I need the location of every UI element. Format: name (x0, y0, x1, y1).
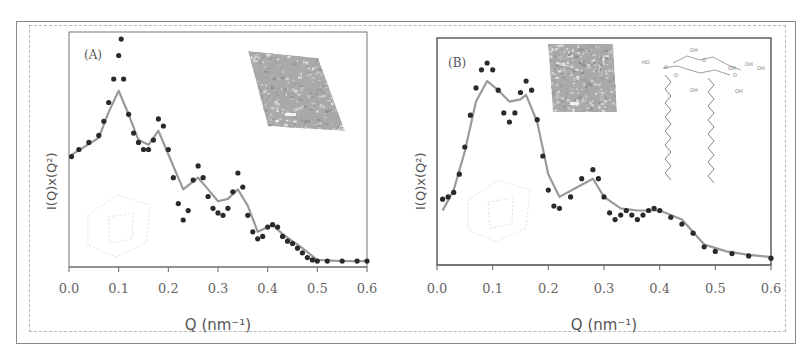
data-point (191, 178, 196, 183)
data-point (300, 250, 305, 255)
data-point (310, 257, 315, 262)
data-point (201, 175, 206, 180)
data-point (451, 190, 456, 195)
data-point (285, 239, 290, 244)
data-point (490, 67, 495, 72)
data-point (230, 189, 235, 194)
data-point (557, 206, 562, 211)
data-point (240, 185, 245, 190)
data-point (131, 131, 136, 136)
chem-atom-label: OH (690, 47, 698, 53)
data-point (315, 259, 320, 264)
chem-atom-label: HO (642, 59, 650, 65)
panel-a-chart: 0.00.10.20.30.40.50.6 (A) I(Q)x(Q²) Q (n… (44, 32, 377, 334)
data-point (691, 231, 696, 236)
chem-atom-label: O (664, 64, 668, 70)
panel-a-plot-frame (69, 32, 367, 267)
panel-b-label: (B) (448, 56, 466, 70)
data-point (176, 201, 181, 206)
data-point (86, 140, 91, 145)
data-point (126, 112, 131, 117)
panel-b-y-axis-title: I(Q)x(Q²) (413, 153, 428, 211)
data-point (220, 213, 225, 218)
panel-a-y-axis-title: I(Q)x(Q²) (44, 153, 59, 211)
data-point (275, 225, 280, 230)
data-point (196, 163, 201, 168)
x-tick-label: 0.4 (257, 281, 278, 296)
data-point (551, 203, 556, 208)
data-point (646, 208, 651, 213)
data-point (668, 215, 673, 220)
data-point (280, 234, 285, 239)
data-point (119, 37, 124, 42)
data-point (540, 153, 545, 158)
data-point (457, 172, 462, 177)
data-point (618, 213, 623, 218)
data-point (501, 110, 506, 115)
panel-a-x-axis-title: Q (nm⁻¹) (185, 316, 251, 334)
data-point (225, 206, 230, 211)
data-point (156, 116, 161, 121)
chem-atom-label: OH (745, 61, 753, 67)
x-tick-label: 0.3 (594, 281, 615, 296)
x-tick-label: 0.5 (705, 281, 726, 296)
data-point (613, 217, 618, 222)
figure-canvas: 0.00.10.20.30.40.50.6 (A) I(Q)x(Q²) Q (n… (0, 0, 805, 357)
chem-atom-label: OH (690, 87, 698, 93)
data-point (106, 100, 111, 105)
data-point (512, 110, 517, 115)
data-point (166, 147, 171, 152)
chem-atom-label: OH (728, 65, 736, 71)
panel-b-x-axis: 0.00.10.20.30.40.50.6 (427, 265, 782, 296)
data-point (579, 176, 584, 181)
data-point (161, 123, 166, 128)
data-point (255, 236, 260, 241)
x-tick-label: 0.0 (59, 281, 80, 296)
x-tick-label: 0.2 (158, 281, 179, 296)
panel-b-x-axis-title: Q (nm⁻¹) (571, 316, 637, 334)
data-point (355, 259, 360, 264)
data-point (640, 213, 645, 218)
chem-atom-label: O (674, 72, 678, 78)
data-point (295, 246, 300, 251)
data-point (524, 79, 529, 84)
data-point (624, 208, 629, 213)
data-point (768, 256, 773, 261)
panel-a-label: (A) (84, 48, 102, 62)
x-tick-label: 0.5 (307, 281, 328, 296)
data-point (146, 147, 151, 152)
data-point (473, 85, 478, 90)
data-point (245, 213, 250, 218)
data-point (485, 60, 490, 65)
data-point (265, 225, 270, 230)
data-point (151, 138, 156, 143)
chem-atom-label: OH (735, 88, 743, 94)
data-point (440, 197, 445, 202)
data-point (181, 217, 186, 222)
data-point (141, 147, 146, 152)
data-point (629, 213, 634, 218)
data-point (462, 144, 467, 149)
data-point (568, 194, 573, 199)
panel-a-data-points (69, 37, 370, 264)
panel-b-chemical-structure: OHHOOOOHOOHOHOHOOH (642, 47, 765, 183)
data-point (590, 167, 595, 172)
panel-b-inset-tem-image (548, 44, 620, 114)
data-point (657, 208, 662, 213)
data-point (479, 67, 484, 72)
data-point (652, 206, 657, 211)
data-point (679, 222, 684, 227)
x-tick-label: 0.1 (482, 281, 503, 296)
x-tick-label: 0.2 (538, 281, 559, 296)
data-point (116, 53, 121, 58)
chem-atom-label: O (733, 72, 737, 78)
data-point (364, 259, 369, 264)
data-point (186, 208, 191, 213)
chem-atom-label: OH (757, 65, 765, 71)
data-point (529, 88, 534, 93)
data-point (215, 210, 220, 215)
data-point (121, 76, 126, 81)
data-point (507, 119, 512, 124)
data-point (496, 88, 501, 93)
x-tick-label: 0.1 (108, 281, 129, 296)
